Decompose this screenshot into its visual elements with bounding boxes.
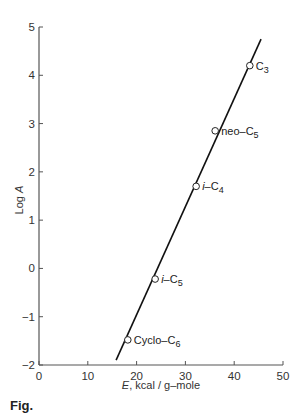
data-point-marker [152,276,159,283]
data-point-marker [212,128,219,135]
data-point-label: neo–C5 [221,125,258,140]
data-point-label: i–C4 [202,180,224,195]
x-tick-label: 0 [36,370,42,382]
y-tick-label: 4 [29,69,36,81]
y-tick-label: −1 [22,311,35,323]
fit-line [116,39,261,360]
y-tick-label: 2 [29,166,35,178]
figure-caption: Fig. [10,398,33,413]
data-point-label: C3 [256,60,269,75]
data-point-marker [125,337,132,344]
data-point-marker [247,62,254,69]
y-tick-label: 0 [29,262,35,274]
data-point-marker [193,183,200,190]
data-point-label: Cyclo–C6 [134,334,181,349]
x-tick-label: 10 [81,370,94,382]
y-tick-label: 1 [29,214,35,226]
y-axis-title: Log A [13,186,25,215]
x-tick-label: 50 [277,370,290,382]
y-tick-label: 5 [29,21,35,33]
x-tick-label: 40 [228,370,241,382]
data-point-label: i–C5 [161,273,183,288]
x-axis-title: E, kcal / g–mole [122,379,200,391]
y-tick-label: 3 [29,118,35,130]
y-tick-label: −2 [22,359,35,371]
